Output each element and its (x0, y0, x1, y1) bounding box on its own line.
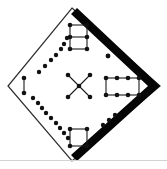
bottom-square-node (85, 127, 90, 132)
bottom-square-node (68, 144, 73, 149)
upper-left-dotted-chain-node (54, 53, 58, 57)
right-rectangle-node (104, 76, 109, 81)
center-star-node (66, 95, 71, 100)
top-rectangle-node (68, 23, 73, 28)
isolated-dot-upper-right-node (106, 54, 111, 59)
lower-left-dotted-chain-node (44, 111, 48, 115)
lower-right-dotted-chain-node (101, 123, 105, 127)
lower-left-dotted-chain-node (49, 116, 53, 120)
figure-canvas (0, 0, 167, 169)
lower-left-dotted-chain-node (36, 101, 40, 105)
top-rectangle-node (85, 47, 90, 52)
center-star-node (77, 84, 82, 89)
right-rectangle-node (137, 76, 142, 81)
right-rectangle-node (126, 93, 131, 98)
right-rectangle-node (137, 93, 142, 98)
lower-right-dotted-chain-node (113, 113, 117, 117)
upper-left-dotted-chain-node (62, 42, 66, 46)
lower-left-dotted-chain-node (40, 106, 44, 110)
center-star-node (88, 95, 93, 100)
lower-left-dotted-chain-node (31, 96, 35, 100)
right-rectangle-node (115, 93, 120, 98)
lower-left-dotted-chain-node (62, 131, 66, 135)
top-rectangle-node (68, 47, 73, 52)
lower-left-dotted-chain-node (58, 126, 62, 130)
top-rectangle-node (85, 23, 90, 28)
left-vertical-segment-node (22, 91, 27, 96)
upper-left-dotted-chain-node (37, 70, 41, 74)
isolated-dot-upper-right (106, 54, 111, 59)
diagram-svg (0, 0, 167, 169)
lower-left-dotted-chain-node (66, 136, 70, 140)
top-rectangle-node (85, 35, 90, 40)
lower-right-dotted-chain-node (107, 118, 111, 122)
bottom-square-node (68, 127, 73, 132)
right-rectangle-node (126, 76, 131, 81)
upper-left-dotted-chain-node (59, 47, 63, 51)
right-rectangle-node (104, 93, 109, 98)
left-vertical-segment-node (22, 76, 27, 81)
upper-left-dotted-chain-node (49, 58, 53, 62)
lower-left-dotted-chain-node (54, 121, 58, 125)
center-star-node (66, 73, 71, 78)
upper-left-dotted-chain-node (65, 36, 69, 40)
upper-left-dotted-chain-node (43, 64, 47, 68)
right-rectangle-node (115, 76, 120, 81)
center-star-node (88, 73, 93, 78)
bottom-square-node (85, 144, 90, 149)
